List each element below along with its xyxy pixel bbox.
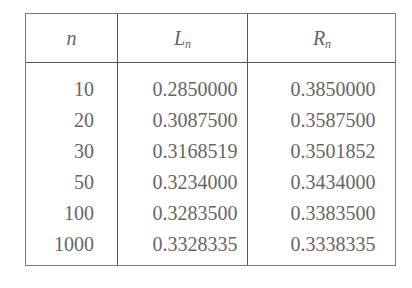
cell-right-sum: 0.3850000 bbox=[269, 74, 397, 105]
header-left-sum: Ln bbox=[118, 14, 247, 62]
cell-n: 20 bbox=[26, 105, 94, 136]
cell-n: 1000 bbox=[26, 229, 94, 260]
header-n: n bbox=[26, 14, 117, 62]
riemann-sum-table: n Ln Rn 10 0.2850000 0.3850000 20 0.3087… bbox=[25, 13, 396, 266]
cell-n: 10 bbox=[26, 74, 94, 105]
cell-right-sum: 0.3383500 bbox=[269, 198, 397, 229]
cell-left-sum: 0.2850000 bbox=[135, 74, 255, 105]
cell-left-sum: 0.3168519 bbox=[135, 136, 255, 167]
cell-n: 30 bbox=[26, 136, 94, 167]
header-divider bbox=[26, 62, 395, 63]
cell-n: 100 bbox=[26, 198, 94, 229]
cell-right-sum: 0.3338335 bbox=[269, 229, 397, 260]
cell-n: 50 bbox=[26, 167, 94, 198]
cell-left-sum: 0.3283500 bbox=[135, 198, 255, 229]
header-right-sum: Rn bbox=[248, 14, 396, 62]
cell-left-sum: 0.3087500 bbox=[135, 105, 255, 136]
cell-right-sum: 0.3501852 bbox=[269, 136, 397, 167]
cell-right-sum: 0.3587500 bbox=[269, 105, 397, 136]
cell-right-sum: 0.3434000 bbox=[269, 167, 397, 198]
cell-left-sum: 0.3328335 bbox=[135, 229, 255, 260]
cell-left-sum: 0.3234000 bbox=[135, 167, 255, 198]
